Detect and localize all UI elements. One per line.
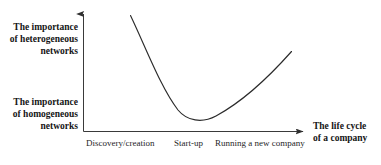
y-axis-label-homogeneous-line-2: of homogeneous	[4, 108, 78, 120]
x-axis-title: The life cycle of a company	[313, 120, 379, 144]
y-axis-label-heterogeneous-line-2: of heterogeneous	[4, 33, 78, 45]
y-axis-label-heterogeneous: The importance of heterogeneous networks	[4, 21, 78, 58]
y-axis-label-heterogeneous-line-1: The importance	[4, 21, 78, 33]
chart-figure: The importance of heterogeneous networks…	[0, 0, 381, 165]
y-axis-label-homogeneous: The importance of homogeneous networks	[4, 96, 78, 133]
x-axis-title-line-2: of a company	[313, 132, 379, 144]
network-importance-curve	[131, 16, 292, 121]
y-axis-label-heterogeneous-line-3: networks	[4, 45, 78, 57]
x-axis-tick-label-running: Running a new company	[215, 138, 305, 149]
x-axis-tick-label-discovery: Discovery/creation	[86, 138, 154, 149]
y-axis-label-homogeneous-line-3: networks	[4, 120, 78, 132]
x-axis-tick-label-startup: Start-up	[174, 138, 203, 149]
x-axis-title-line-1: The life cycle	[313, 120, 379, 132]
y-axis-label-homogeneous-line-1: The importance	[4, 96, 78, 108]
